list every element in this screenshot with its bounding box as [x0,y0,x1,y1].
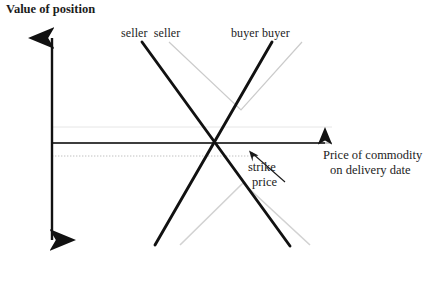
strike-price-label-line2: price [248,175,277,190]
strike-price-label-line1: strike [248,160,277,175]
seller-label-group: seller seller [121,26,180,40]
faint-upper-v [169,42,302,110]
strike-price-label: strike price [248,160,277,190]
y-axis-title: Value of position [6,2,95,17]
seller-payoff-line [142,42,290,246]
x-axis-title-line1: Price of commodity [323,148,422,163]
buyer-label-right: buyer [262,26,290,40]
seller-label-left: seller [121,26,148,40]
seller-label-right: seller [154,26,181,40]
payoff-diagram-figure: Value of position seller seller buyer bu… [0,0,440,282]
diagram-canvas [0,0,440,282]
buyer-label-left: buyer [231,26,259,40]
x-axis-title-line2: on delivery date [323,163,422,178]
x-axis-title: Price of commodity on delivery date [323,148,422,178]
faint-lower-inverted-v [180,183,310,245]
buyer-label-group: buyer buyer [231,26,290,40]
